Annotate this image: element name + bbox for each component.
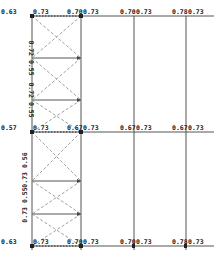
- bottom-ratio-label: 0.73: [188, 238, 204, 246]
- vertical-ratio-label: 0.72 0.55: [27, 82, 35, 117]
- mid-ratio-label: 0.57: [1, 124, 17, 132]
- mid-ratio-label: 0.67: [172, 124, 188, 132]
- top-ratio-label: 0.70: [67, 8, 83, 16]
- top-ratio-label: 0.63: [1, 8, 17, 16]
- bottom-ratio-label: 0.73: [136, 238, 152, 246]
- vertical-ratio-label: 0.73 0.56: [21, 152, 29, 187]
- bottom-ratio-label: 0.63: [1, 238, 17, 246]
- top-ratio-label: 0.78: [172, 8, 188, 16]
- bottom-ratio-label: 0.73: [83, 238, 99, 246]
- vertical-ratio-label: 0.72 0.55: [27, 40, 35, 75]
- bottom-ratio-label: 0.73: [33, 238, 49, 246]
- top-ratio-label: 0.73: [83, 8, 99, 16]
- bottom-ratio-label: 0.70: [120, 238, 136, 246]
- mid-ratio-label: 0.73: [136, 124, 152, 132]
- mid-ratio-label: 0.73: [83, 124, 99, 132]
- bottom-ratio-label: 0.70: [67, 238, 83, 246]
- bottom-ratio-label: 0.78: [172, 238, 188, 246]
- top-ratio-label: 0.73: [136, 8, 152, 16]
- top-ratio-label: 0.73: [188, 8, 204, 16]
- top-ratio-label: 0.70: [120, 8, 136, 16]
- ratio-labels: 0.630.730.700.730.700.730.780.730.570.73…: [1, 8, 204, 246]
- mid-ratio-label: 0.73: [188, 124, 204, 132]
- frame-svg: 0.630.730.700.730.700.730.780.730.570.73…: [0, 0, 220, 264]
- arrow-icons: [77, 56, 81, 216]
- node-markers: [30, 14, 187, 248]
- mid-ratio-label: 0.67: [67, 124, 83, 132]
- struts: [32, 58, 81, 214]
- mid-ratio-label: 0.67: [120, 124, 136, 132]
- frame-diagram: 0.630.730.700.730.700.730.780.730.570.73…: [0, 0, 220, 264]
- vertical-ratio-label: 0.73 0.55: [21, 187, 29, 222]
- mid-ratio-label: 0.73: [33, 124, 49, 132]
- top-ratio-label: 0.73: [33, 8, 49, 16]
- columns: [32, 16, 186, 250]
